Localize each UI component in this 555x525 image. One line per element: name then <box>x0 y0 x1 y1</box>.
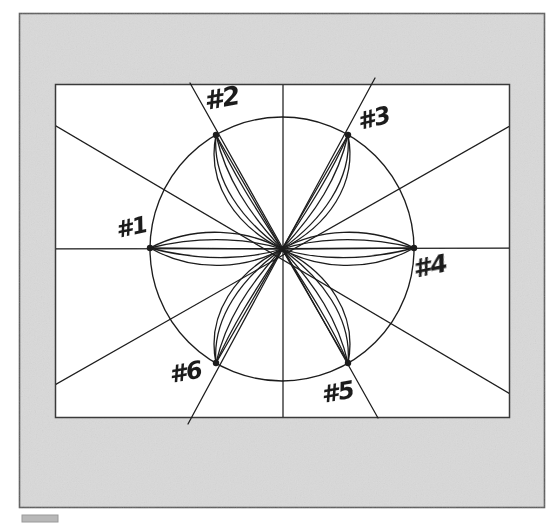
corner-mark <box>22 515 58 522</box>
node-dot-2 <box>213 132 219 138</box>
node-dot-5 <box>345 360 351 366</box>
node-dot-3 <box>345 132 351 138</box>
point-label-2: #2 <box>202 80 243 116</box>
node-dot-1 <box>147 245 153 251</box>
node-dot-4 <box>411 245 417 251</box>
geometry-diagram: #1 #2 #3 #4 #5 #6 <box>0 0 555 525</box>
figure-root: #1 #2 #3 #4 #5 #6 <box>0 0 555 525</box>
point-label-5: #5 <box>319 376 357 409</box>
node-dot-6 <box>213 360 219 366</box>
node-dot-center <box>279 246 285 252</box>
point-label-6: #6 <box>167 356 205 389</box>
